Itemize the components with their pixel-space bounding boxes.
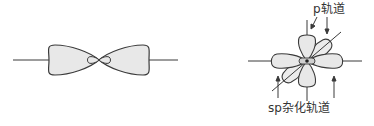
sp-arrow-left-head: [276, 76, 280, 81]
right-orbital-figure: [248, 17, 362, 101]
nucleus-dot: [305, 59, 309, 63]
sp-hybrid-orbital-label: sp杂化轨道: [268, 102, 330, 114]
small-left-lobe: [88, 57, 100, 64]
left-orbital-figure: [13, 45, 178, 75]
p-orbital-arrows: [311, 17, 329, 34]
p-orbital-label: p轨道: [313, 3, 345, 15]
small-right-lobe: [99, 57, 111, 64]
p-arrow-2-head: [325, 29, 329, 34]
p-arrow-1-head: [311, 24, 315, 29]
sp-arrow-right-head: [332, 76, 336, 81]
